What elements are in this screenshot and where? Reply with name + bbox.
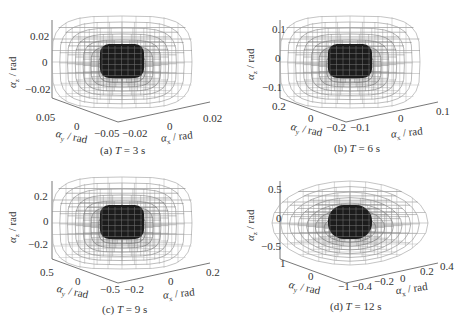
- z-tick: 0: [42, 57, 48, 68]
- z-axis-label: αz / rad: [244, 49, 259, 81]
- y-tick: 0.05: [36, 112, 55, 123]
- panel-a: 0.02 0 −0.02 αz / rad 0.05 0 −0.05 −0.02…: [0, 0, 228, 161]
- z-tick: 0: [276, 213, 282, 224]
- z-tick: −0.5: [261, 241, 281, 252]
- z-axis-label: αz / rad: [6, 212, 21, 244]
- y-tick: −1: [338, 281, 350, 292]
- z-tick: 0.02: [30, 31, 49, 42]
- panel-c: 0.2 0 −0.2 αz / rad 0.5 0 −0.5 −0.2 0 0.…: [0, 161, 228, 322]
- z-tick: 0: [275, 53, 281, 64]
- x-tick: 0: [168, 276, 174, 287]
- z-tick: 0.5: [268, 184, 282, 195]
- z-tick: 0.2: [34, 191, 48, 202]
- y-tick: 0.2: [272, 101, 286, 112]
- z-tick: 0.1: [272, 24, 286, 35]
- y-tick: 1: [280, 258, 286, 269]
- x-tick: 0.2: [206, 267, 220, 278]
- y-tick: 0.5: [40, 267, 54, 278]
- x-tick: −0.1: [350, 122, 370, 133]
- x-axis-label: αx / rad: [162, 286, 195, 305]
- caption: (b) T = 6 s: [334, 142, 380, 154]
- caption: (c) T = 9 s: [102, 303, 147, 315]
- x-tick: 0: [398, 113, 404, 124]
- z-axis-label: αz / rad: [6, 57, 21, 89]
- x-tick: 0.2: [420, 266, 434, 277]
- x-tick: −0.4: [352, 281, 372, 292]
- panel-d: 0.5 0 −0.5 αz / rad 1 0 −1 −0.4 −0.2 0 0…: [228, 161, 456, 322]
- caption: (a) T = 3 s: [100, 144, 145, 156]
- z-tick: −0.1: [262, 82, 282, 93]
- x-tick: −0.2: [374, 276, 394, 287]
- y-tick: −0.05: [94, 128, 119, 139]
- y-tick: −0.2: [326, 122, 346, 133]
- z-axis-label: αz / rad: [244, 210, 259, 242]
- y-tick: 0: [308, 113, 314, 124]
- y-tick: 0: [308, 271, 314, 282]
- x-tick: −0.2: [124, 284, 144, 295]
- x-tick: −0.02: [122, 128, 147, 139]
- x-axis-label: αx / rad: [390, 125, 423, 144]
- x-axis-label: αx / rad: [160, 129, 193, 148]
- panel-b: 0.1 0 −0.1 αz / rad 0.2 0 −0.2 −0.1 0 0.…: [228, 0, 456, 161]
- x-tick: 0.4: [440, 261, 454, 272]
- y-tick: −0.5: [100, 284, 120, 295]
- z-tick: −0.02: [25, 84, 50, 95]
- z-tick: 0: [43, 216, 49, 227]
- x-tick: 0.02: [203, 113, 222, 124]
- z-tick: −0.2: [28, 239, 48, 250]
- x-tick: 0.1: [436, 106, 450, 117]
- caption: (d) T = 12 s: [330, 300, 381, 312]
